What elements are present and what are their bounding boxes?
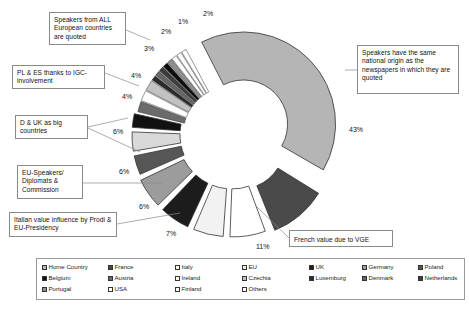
legend-item-label: Netherlands	[425, 274, 458, 282]
pie-slice-france[interactable]	[257, 168, 319, 230]
legend-swatch-icon	[42, 287, 47, 292]
legend-item-home-country[interactable]: Home Country	[42, 263, 88, 271]
legend-item-label: Home Country	[49, 263, 88, 271]
legend-swatch-icon	[309, 265, 314, 270]
legend-item-label: Others	[249, 285, 267, 293]
slice-label-7: 7%	[166, 230, 176, 237]
slice-label-4a: 4%	[122, 93, 132, 100]
legend-item-belgium[interactable]: Belgium	[42, 274, 71, 282]
legend-swatch-icon	[242, 287, 247, 292]
slice-label-43: 43%	[349, 126, 363, 133]
legend-item-denmark[interactable]: Denmark	[362, 274, 393, 282]
slice-label-6b: 6%	[119, 168, 129, 175]
legend-swatch-icon	[175, 265, 180, 270]
legend-item-luxemburg[interactable]: Luxemburg	[309, 274, 346, 282]
legend-item-label: Czechia	[249, 274, 271, 282]
callout-same-national-origin: Speakers have the same national origin a…	[357, 45, 459, 94]
legend-swatch-icon	[42, 276, 47, 281]
legend-swatch-icon	[418, 276, 423, 281]
legend-item-label: France	[115, 263, 134, 271]
legend: Home CountryFranceItalyEUUKGermanyPoland…	[36, 258, 465, 300]
slice-label-1: 1%	[178, 18, 188, 25]
legend-item-others[interactable]: Others	[242, 285, 267, 293]
legend-row: PortugalUSAFinlandOthers	[42, 285, 459, 296]
legend-item-poland[interactable]: Poland	[418, 263, 443, 271]
slice-label-6c: 6%	[113, 128, 123, 135]
legend-item-usa[interactable]: USA	[108, 285, 127, 293]
legend-item-label: Poland	[425, 263, 444, 271]
legend-swatch-icon	[175, 287, 180, 292]
callout-pl-es-igc: PL & ES thanks to IGC-involvement	[12, 65, 105, 89]
legend-item-czechia[interactable]: Czechia	[242, 274, 271, 282]
legend-item-netherlands[interactable]: Netherlands	[418, 274, 457, 282]
slice-label-3: 3%	[144, 45, 154, 52]
legend-item-ireland[interactable]: Ireland	[175, 274, 200, 282]
legend-swatch-icon	[309, 276, 314, 281]
legend-swatch-icon	[362, 276, 367, 281]
legend-item-label: Belgium	[49, 274, 71, 282]
leader-d-uk-1	[88, 118, 128, 127]
slice-label-4b: 4%	[131, 72, 141, 79]
callout-all-european-countries: Speakers from ALL European countries are…	[49, 12, 126, 45]
pie-slice-home-country[interactable]	[202, 32, 336, 170]
legend-item-uk[interactable]: UK	[309, 263, 324, 271]
legend-item-italy[interactable]: Italy	[175, 263, 193, 271]
legend-swatch-icon	[242, 276, 247, 281]
leader-all-european	[126, 30, 150, 40]
legend-item-label: Luxemburg	[316, 274, 347, 282]
legend-item-finland[interactable]: Finland	[175, 285, 202, 293]
legend-item-france[interactable]: France	[108, 263, 133, 271]
legend-swatch-icon	[108, 287, 113, 292]
legend-item-label: USA	[115, 285, 128, 293]
legend-row: Home CountryFranceItalyEUUKGermanyPoland…	[42, 263, 459, 274]
legend-item-label: UK	[316, 263, 324, 271]
legend-swatch-icon	[108, 265, 113, 270]
legend-swatch-icon	[42, 265, 47, 270]
legend-swatch-icon	[418, 265, 423, 270]
legend-item-label: EU	[249, 263, 257, 271]
legend-swatch-icon	[362, 265, 367, 270]
callout-italian-value-prodi: Italian value influence by Prodi & EU-Pr…	[9, 212, 117, 237]
callout-d-uk-big-countries: D & UK as big countries	[15, 115, 88, 139]
callout-french-value-vge: French value due to VGE	[289, 230, 393, 247]
legend-item-label: Portugal	[49, 285, 72, 293]
legend-item-portugal[interactable]: Portugal	[42, 285, 71, 293]
legend-item-eu[interactable]: EU	[242, 263, 257, 271]
callout-eu-speakers-diplomats: EU-Speakers/ Diplomats & Commission	[17, 165, 83, 199]
legend-item-label: Finland	[182, 285, 202, 293]
slice-label-2b: 2%	[203, 10, 213, 17]
legend-item-austria[interactable]: Austria	[108, 274, 133, 282]
legend-item-label: Austria	[115, 274, 134, 282]
legend-item-label: Denmark	[369, 274, 394, 282]
legend-item-label: Germany	[369, 263, 394, 271]
legend-swatch-icon	[108, 276, 113, 281]
slice-label-11: 11%	[256, 243, 270, 250]
legend-item-label: Ireland	[182, 274, 201, 282]
legend-row: BelgiumAustriaIrelandCzechiaLuxemburgDen…	[42, 274, 459, 285]
legend-item-label: Italy	[182, 263, 193, 271]
legend-item-germany[interactable]: Germany	[362, 263, 394, 271]
slice-label-2a: 2%	[161, 28, 171, 35]
chart-canvas: 43% 11% 7% 6% 6% 6% 4% 4% 3% 2% 1% 2% Sp…	[0, 0, 469, 318]
leader-italian-value	[117, 213, 180, 224]
legend-swatch-icon	[242, 265, 247, 270]
legend-swatch-icon	[175, 276, 180, 281]
slice-label-6a: 6%	[139, 203, 149, 210]
